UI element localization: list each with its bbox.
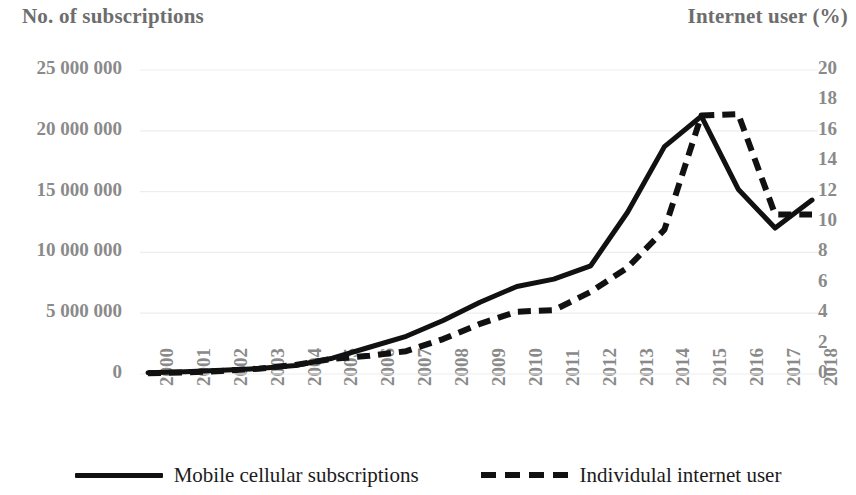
legend-item-mobile-cellular-subscriptions[interactable]: Mobile cellular subscriptions <box>75 463 419 488</box>
legend-label-individual-internet-user: Individulal internet user <box>580 463 782 488</box>
legend-item-individual-internet-user[interactable]: Individulal internet user <box>481 463 782 488</box>
series-line-1 <box>148 116 812 373</box>
plot-area <box>0 0 856 495</box>
solid-line-swatch-icon <box>75 473 163 478</box>
chart-legend: Mobile cellular subscriptions Individula… <box>0 455 856 495</box>
legend-label-mobile-cellular-subscriptions: Mobile cellular subscriptions <box>174 463 419 488</box>
series-line-2 <box>148 114 812 373</box>
series-lines <box>148 114 812 373</box>
gridlines <box>140 70 818 374</box>
dual-axis-line-chart: No. of subscriptions Internet user (%) 2… <box>0 0 856 495</box>
dashed-line-swatch-icon <box>481 472 569 478</box>
